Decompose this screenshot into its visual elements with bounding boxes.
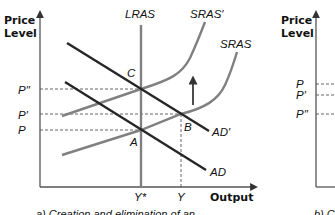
ad-label: AD [209, 166, 226, 178]
y-axis-title-line2: Level [4, 27, 37, 40]
price-tick-p-prime: P′ [18, 109, 29, 121]
panel-b: Price Level P P′ P′′ b) C [281, 14, 335, 215]
ad-prime-label: AD′ [211, 126, 231, 138]
panel-b-price-tick-p-prime: P′ [296, 89, 307, 101]
panel-b-price-tick-p-double-prime: P′′ [296, 108, 309, 120]
lras-label: LRAS [125, 8, 155, 20]
panel-b-y-axis-title-line2: Level [281, 27, 314, 40]
y-axis-title-line1: Price [4, 14, 35, 27]
x-axis-title: Output [210, 191, 253, 204]
panel-b-y-axis-title-line1: Price [281, 14, 312, 27]
panel-a-caption: a) Creation and elimination of an [36, 208, 195, 215]
point-b-label: B [184, 121, 192, 133]
diagram-canvas: Price Level Output LRAS SRAS′ SRAS AD′ A… [0, 0, 335, 215]
price-tick-p: P [18, 124, 26, 136]
point-c-label: C [127, 67, 136, 79]
sras-label: SRAS [220, 38, 252, 50]
ad-prime-curve [67, 43, 209, 131]
output-tick-y-star: Y* [134, 191, 147, 203]
output-tick-y: Y [177, 191, 186, 203]
point-a-label: A [129, 136, 138, 148]
sras-prime-label: SRAS′ [190, 8, 224, 20]
price-tick-p-double-prime: P′′ [18, 84, 31, 96]
panel-b-caption: b) C [314, 208, 335, 215]
sras-curve [62, 52, 237, 155]
panel-a: Price Level Output LRAS SRAS′ SRAS AD′ A… [4, 8, 254, 215]
